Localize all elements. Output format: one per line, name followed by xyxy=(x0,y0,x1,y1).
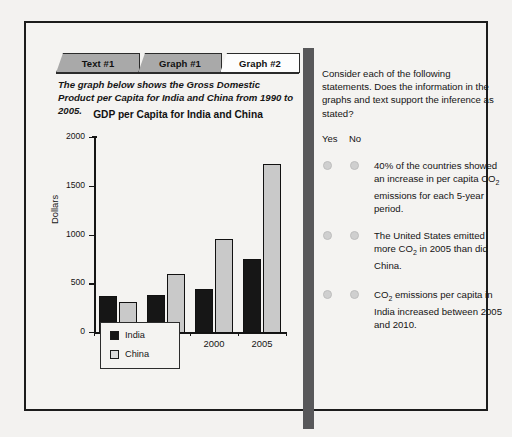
y-tick-1000: 1000 xyxy=(89,235,94,236)
x-tick-4 xyxy=(286,332,287,336)
radio-no-2[interactable] xyxy=(350,231,359,240)
statement-list: 40% of the countries showed an increase … xyxy=(322,159,508,334)
y-tick-label-0: 0 xyxy=(80,326,85,336)
radio-no-3[interactable] xyxy=(350,290,359,299)
yes-no-header: Yes No xyxy=(322,133,508,146)
bar-india-2000 xyxy=(195,289,213,333)
right-panel: Consider each of the following statement… xyxy=(322,67,508,334)
statement-text-1: 40% of the countries showed an increase … xyxy=(374,159,506,216)
y-axis-line xyxy=(94,138,96,334)
radio-no-1[interactable] xyxy=(350,161,359,170)
bar-india-2005 xyxy=(243,259,261,333)
question-prompt: Consider each of the following statement… xyxy=(322,67,500,120)
x-tick-label-2005: 2005 xyxy=(238,338,286,349)
gdp-bar-chart: Dollars 0500100015002000 199019952000200… xyxy=(56,126,300,428)
y-tick-label-2000: 2000 xyxy=(66,131,85,141)
tab-bar: Text #1 Graph #1 Graph #2 xyxy=(56,51,298,73)
tab-underline xyxy=(56,72,299,74)
x-tick-3 xyxy=(238,332,239,336)
y-tick-label-1000: 1000 xyxy=(66,229,85,239)
y-tick-500: 500 xyxy=(89,283,94,284)
no-column-label: No xyxy=(349,133,361,144)
y-tick-label-1500: 1500 xyxy=(66,180,85,190)
bar-china-2005 xyxy=(263,164,281,333)
statement-row-3: CO2 emissions per capita in India increa… xyxy=(322,288,508,334)
chart-legend: India China xyxy=(100,322,180,369)
tab-label: Graph #1 xyxy=(159,58,201,69)
chart-title: GDP per Capita for India and China xyxy=(56,109,300,120)
radio-yes-3[interactable] xyxy=(323,290,332,299)
legend-item-india: India xyxy=(110,330,179,340)
tab-graph-1[interactable]: Graph #1 xyxy=(138,53,222,73)
legend-swatch-india xyxy=(110,331,119,340)
statement-row-2: The United States emitted more CO2 in 20… xyxy=(322,229,508,275)
radio-yes-1[interactable] xyxy=(323,161,332,170)
yes-column-label: Yes xyxy=(322,133,338,144)
screenshot-root: Text #1 Graph #1 Graph #2 The graph belo… xyxy=(0,0,512,437)
statement-text-2: The United States emitted more CO2 in 20… xyxy=(374,229,506,273)
tab-text-1[interactable]: Text #1 xyxy=(56,53,140,73)
legend-label-china: China xyxy=(125,349,149,359)
tab-label: Graph #2 xyxy=(239,58,281,69)
left-panel: The graph below shows the Gross Domestic… xyxy=(56,76,300,428)
legend-label-india: India xyxy=(125,330,145,340)
radio-yes-2[interactable] xyxy=(323,231,332,240)
tab-label: Text #1 xyxy=(82,58,115,69)
tab-graph-2[interactable]: Graph #2 xyxy=(220,53,300,73)
legend-swatch-china xyxy=(110,350,119,359)
y-tick-1500: 1500 xyxy=(89,186,94,187)
x-tick-2 xyxy=(190,332,191,336)
y-tick-label-500: 500 xyxy=(71,277,85,287)
y-tick-2000: 2000 xyxy=(89,137,94,138)
y-axis-title: Dollars xyxy=(49,195,60,224)
statement-text-3: CO2 emissions per capita in India increa… xyxy=(374,288,506,332)
bar-china-2000 xyxy=(215,239,233,333)
content-frame: Text #1 Graph #1 Graph #2 The graph belo… xyxy=(24,21,488,411)
legend-item-china: China xyxy=(110,349,179,359)
panel-separator xyxy=(303,48,314,429)
x-tick-label-2000: 2000 xyxy=(190,338,238,349)
x-tick-0 xyxy=(94,332,95,336)
statement-row-1: 40% of the countries showed an increase … xyxy=(322,159,508,216)
